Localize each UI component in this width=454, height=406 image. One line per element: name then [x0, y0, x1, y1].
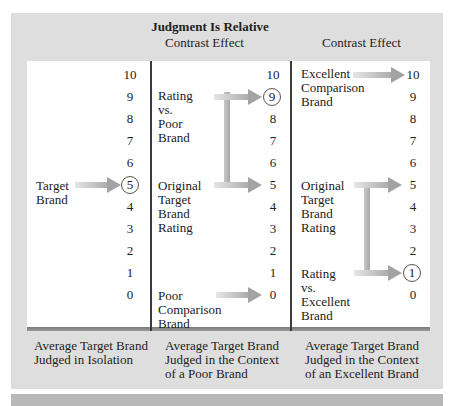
connector-bar	[224, 92, 230, 188]
column-1-caption: Average Target Brand Judged in Isolation	[34, 339, 148, 367]
scale-value: 5	[263, 177, 283, 193]
column-2-heading: Contrast Effect	[165, 35, 244, 51]
poor-comparison-label: Poor Comparison Brand	[158, 289, 222, 331]
rating-vs-poor-label: Rating vs. Poor Brand	[158, 89, 193, 145]
scale-value: 3	[120, 221, 140, 237]
scale-value: 7	[120, 133, 140, 149]
column-divider-1	[150, 61, 152, 331]
scale-value: 10	[263, 67, 283, 83]
scale-value: 6	[263, 155, 283, 171]
scale-value: 4	[403, 199, 423, 215]
scale-value: 2	[120, 243, 140, 259]
scale-value: 6	[120, 155, 140, 171]
scale-value: 7	[263, 133, 283, 149]
arrow-icon	[214, 92, 262, 102]
original-target-rating-label: Original Target Brand Rating	[301, 179, 344, 235]
scale-value: 4	[263, 199, 283, 215]
column-2-caption: Average Target Brand Judged in the Conte…	[165, 339, 279, 381]
scale-value: 1	[120, 265, 140, 281]
connector-bar	[364, 182, 370, 276]
scale-value: 9	[403, 89, 423, 105]
scale-value: 7	[403, 133, 423, 149]
column-3-heading: Contrast Effect	[322, 35, 401, 51]
scale-value: 8	[120, 111, 140, 127]
scale-value: 1	[263, 265, 283, 281]
rating-vs-excellent-label: Rating vs. Excellent Brand	[301, 267, 350, 323]
scale-value: 2	[403, 243, 423, 259]
column-divider-2	[290, 61, 292, 331]
scale-value: 3	[403, 221, 423, 237]
scale-value: 0	[120, 287, 140, 303]
arrow-icon	[353, 70, 405, 80]
scale-value: 0	[403, 287, 423, 303]
scale-value: 6	[403, 155, 423, 171]
scale-value: 0	[263, 287, 283, 303]
figure-title: Judgment Is Relative	[130, 19, 290, 35]
scale-value: 8	[263, 111, 283, 127]
column-3-caption: Average Target Brand Judged in the Conte…	[305, 339, 419, 381]
circled-scale-value: 5	[121, 176, 139, 194]
scale-value: 8	[403, 111, 423, 127]
scale-value: 5	[403, 177, 423, 193]
arrow-icon	[214, 180, 262, 190]
footer-band	[11, 394, 443, 406]
scale-value: 9	[120, 89, 140, 105]
circled-scale-value: 9	[263, 88, 281, 106]
target-brand-label: Target Brand	[36, 179, 69, 207]
arrow-icon	[216, 290, 262, 300]
arrow-icon	[354, 180, 402, 190]
arrow-icon	[354, 268, 402, 278]
scale-value: 2	[263, 243, 283, 259]
scale-value: 3	[263, 221, 283, 237]
original-target-rating-label: Original Target Brand Rating	[158, 179, 201, 235]
scale-value: 10	[120, 67, 140, 83]
arrow-icon	[75, 180, 121, 190]
scale-value: 10	[403, 67, 423, 83]
scale-value: 4	[120, 199, 140, 215]
scale-area-baseline	[27, 327, 430, 331]
circled-scale-value: 1	[403, 264, 421, 282]
